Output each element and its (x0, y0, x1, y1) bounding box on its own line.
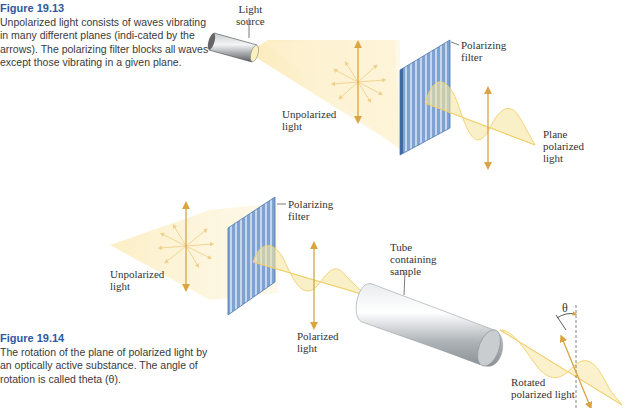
sample-tube (356, 272, 505, 369)
tube-label: Tube containing sample (390, 241, 436, 277)
polarized-light-label: Polarized light (297, 330, 339, 354)
rotated-light-label: Rotated polarized light (511, 376, 575, 400)
unpolarized-light-label-1: Unpolarized light (282, 108, 336, 132)
polarizing-filter-label-2: Polarizing filter (288, 198, 333, 222)
light-source-label: Light source (236, 3, 265, 27)
plane-polarized-light-label: Plane polarized light (543, 128, 584, 164)
theta-label: θ (562, 302, 568, 314)
unpolarized-light-label-2: Unpolarized light (110, 268, 164, 292)
polarizing-filter-label-1: Polarizing filter (461, 39, 506, 63)
